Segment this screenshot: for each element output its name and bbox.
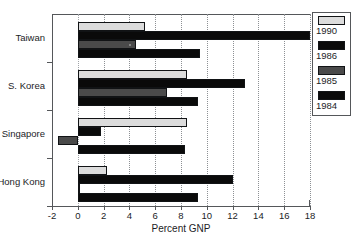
bar-hong-kong-1990 [78, 166, 108, 175]
gridline-x-14 [258, 14, 259, 206]
legend-row-1984: 1984 [313, 90, 350, 115]
legend-row-1985: 1985 [313, 65, 350, 90]
y-category-label-hong-kong: Hong Kong [0, 176, 45, 187]
y-category-label-singapore: Singapore [0, 128, 45, 139]
y-tick-0 [47, 62, 52, 63]
bar-taiwan-1986 [78, 31, 310, 40]
scan-artifact-dot [129, 44, 131, 46]
bar-s-korea-1990 [78, 70, 188, 79]
bar-s-korea-1984 [78, 97, 198, 106]
bar-taiwan-1985 [78, 40, 136, 49]
bar-taiwan-1984 [78, 49, 201, 58]
y-tick-1 [47, 110, 52, 111]
bar-chart: -2024681012141618 Percent GNP TaiwanS. K… [0, 0, 353, 238]
bar-hong-kong-1984 [78, 193, 198, 202]
legend-swatch-1985 [318, 66, 345, 75]
legend-row-1986: 1986 [313, 40, 350, 65]
y-category-label-s-korea: S. Korea [0, 80, 45, 91]
legend-label-1986: 1986 [316, 50, 350, 62]
bar-s-korea-1985 [78, 88, 167, 97]
y-tick-3 [47, 206, 52, 207]
bar-s-korea-1986 [78, 79, 246, 88]
y-category-label-taiwan: Taiwan [0, 32, 45, 43]
legend-swatch-1984 [318, 91, 345, 100]
gridline-x-18 [310, 14, 311, 206]
legend-row-1990: 1990 [313, 15, 350, 40]
legend: 1990198619851984 [312, 12, 351, 116]
bar-hong-kong-1985 [78, 184, 80, 193]
legend-label-1984: 1984 [316, 100, 350, 112]
bar-singapore-1985 [58, 136, 77, 145]
x-tick-label-18: 18 [295, 210, 325, 222]
bar-singapore-1986 [78, 127, 101, 136]
gridline-x-12 [233, 14, 234, 206]
legend-label-1990: 1990 [316, 25, 350, 37]
legend-label-1985: 1985 [316, 75, 350, 87]
bar-hong-kong-1986 [78, 175, 233, 184]
y-tick-2 [47, 158, 52, 159]
bar-singapore-1984 [78, 145, 185, 154]
legend-swatch-1990 [318, 16, 345, 25]
gridline-x-16 [284, 14, 285, 206]
x-axis-title: Percent GNP [52, 223, 310, 234]
bar-taiwan-1990 [78, 22, 145, 31]
bar-singapore-1990 [78, 118, 188, 127]
legend-swatch-1986 [318, 41, 345, 50]
